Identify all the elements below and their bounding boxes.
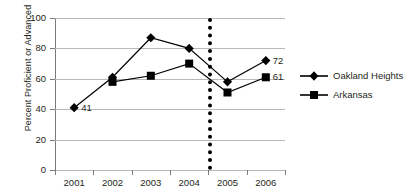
gridline — [55, 48, 285, 49]
diamond-marker-icon — [300, 69, 328, 83]
y-tick-label: 100 — [12, 12, 46, 23]
gridline — [55, 140, 285, 141]
x-tick-mark — [93, 170, 94, 175]
gridline — [55, 79, 285, 80]
x-tick-mark — [132, 170, 133, 175]
x-tick-label: 2003 — [130, 177, 172, 188]
y-tick-mark — [50, 79, 55, 80]
x-tick-mark — [170, 170, 171, 175]
y-tick-mark — [50, 18, 55, 19]
y-tick-label: 40 — [12, 103, 46, 114]
square-marker-icon — [300, 88, 328, 102]
x-tick-label: 2005 — [207, 177, 249, 188]
x-tick-mark — [247, 170, 248, 175]
y-tick-mark — [50, 48, 55, 49]
y-tick-mark — [50, 109, 55, 110]
point-value-label: 41 — [81, 102, 92, 113]
point-value-label: 61 — [273, 71, 284, 82]
legend-item-arkansas[interactable]: Arkansas — [300, 85, 409, 104]
legend-label-arkansas: Arkansas — [333, 89, 373, 100]
x-tick-mark — [285, 170, 286, 175]
chart-container: Percent Proficient or Advanced 020406080… — [0, 0, 409, 194]
legend: Oakland Heights Arkansas — [300, 66, 409, 104]
y-tick-label: 20 — [12, 134, 46, 145]
point-value-label: 72 — [273, 55, 284, 66]
x-tick-label: 2002 — [92, 177, 134, 188]
y-tick-label: 60 — [12, 73, 46, 84]
plot-area — [55, 18, 285, 170]
reference-divider-line — [208, 18, 212, 170]
gridline — [55, 18, 285, 19]
y-tick-label: 0 — [12, 164, 46, 175]
y-tick-mark — [50, 140, 55, 141]
x-tick-mark — [55, 170, 56, 175]
legend-item-oakland-heights[interactable]: Oakland Heights — [300, 66, 409, 85]
x-tick-label: 2001 — [53, 177, 95, 188]
legend-label-oakland-heights: Oakland Heights — [333, 70, 403, 81]
x-tick-label: 2006 — [245, 177, 287, 188]
y-tick-label: 80 — [12, 42, 46, 53]
x-tick-mark — [208, 170, 209, 175]
x-tick-label: 2004 — [168, 177, 210, 188]
